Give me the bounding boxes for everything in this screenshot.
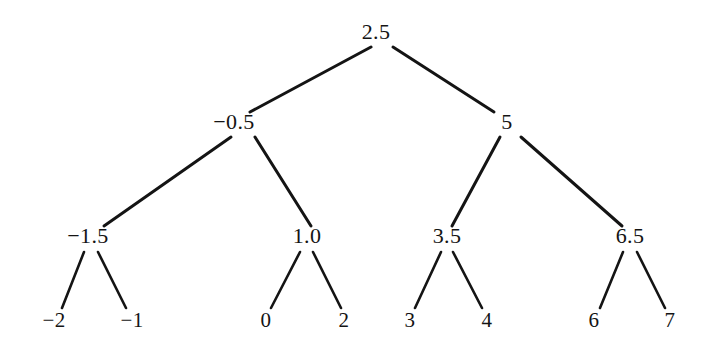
tree-edge-layer [0,0,727,349]
tree-edge [104,137,231,226]
tree-node-label: 6 [589,309,600,331]
binary-tree-figure: 2.5−0.55−1.51.03.56.5−2−1023467 [0,0,727,349]
tree-node-label: 0 [261,309,272,331]
tree-edge [415,252,441,308]
tree-edge [452,137,500,226]
tree-node-label: 7 [665,309,676,331]
tree-node-label: 6.5 [616,225,645,247]
tree-edge [600,252,623,308]
tree-node-label: −0.5 [213,111,255,133]
tree-edge [98,252,126,308]
tree-edge [271,252,300,308]
tree-node-label: −2 [42,309,65,331]
tree-edge [62,252,84,308]
tree-node-label: 1.0 [293,225,322,247]
tree-node-label: 3.5 [433,225,462,247]
tree-node-label: 3 [405,309,416,331]
tree-edge [521,137,622,226]
tree-node-label: 2.5 [362,21,391,43]
tree-node-label: 2 [339,309,350,331]
tree-edge [255,137,311,226]
tree-edge [637,252,665,308]
tree-edge [393,47,494,112]
tree-node-label: −1 [120,309,143,331]
tree-node-label: −1.5 [67,225,109,247]
tree-edge [453,252,482,308]
tree-node-label: 5 [501,111,512,133]
tree-edge [313,252,341,308]
tree-node-label: 4 [482,309,493,331]
tree-edge [250,47,371,112]
